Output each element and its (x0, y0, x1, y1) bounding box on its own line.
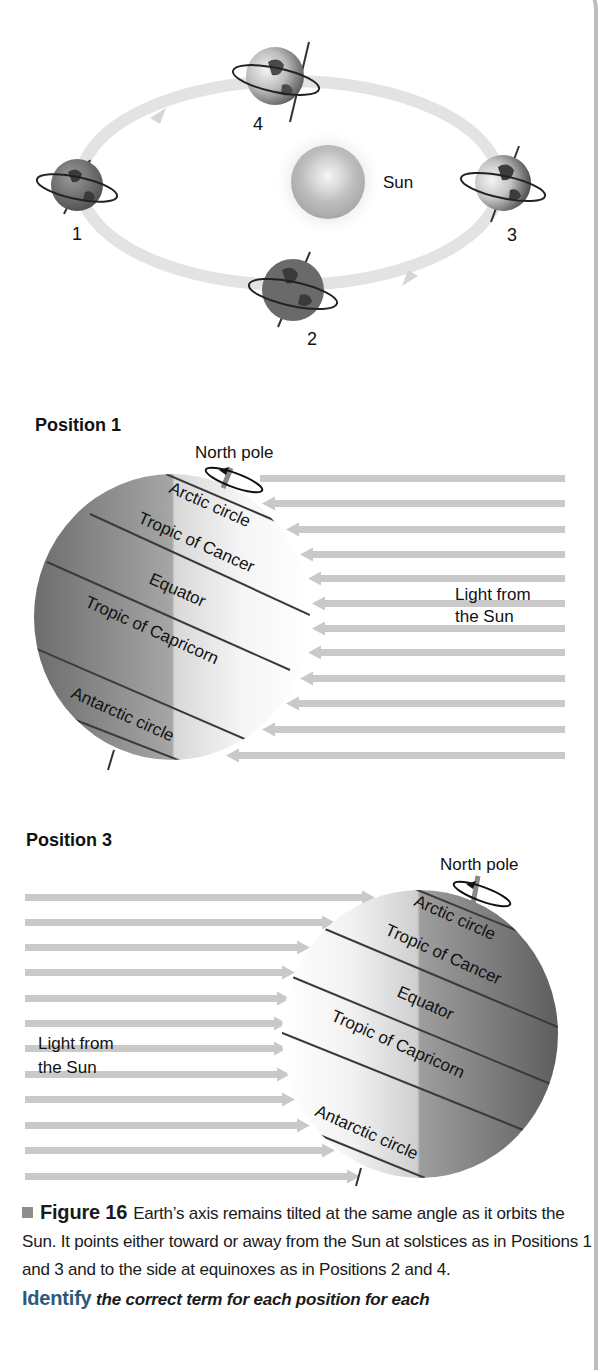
identify-prompt: the correct term for each position for e… (96, 1290, 429, 1309)
position-number: 2 (307, 329, 317, 349)
caption-bullet-icon (22, 1207, 33, 1218)
position-number: 1 (72, 224, 82, 244)
position-3-title: Position 3 (26, 830, 112, 850)
position-number: 3 (507, 225, 517, 245)
figure-caption: Figure 16Earth’s axis remains tilted at … (22, 1198, 592, 1314)
light-from-sun-label: the Sun (38, 1058, 97, 1077)
light-from-sun-label: the Sun (455, 607, 514, 626)
earth-globe-position-2: 2 (246, 252, 339, 349)
position-number: 4 (253, 114, 263, 134)
sun-icon (291, 145, 365, 219)
light-from-sun-label: Light from (38, 1034, 114, 1053)
position-3-diagram: Position 3 Light from the Sun (25, 830, 565, 1186)
identify-label: Identify (22, 1287, 92, 1309)
position-1-diagram: Position 1 Light from the Sun (30, 415, 565, 770)
position-1-title: Position 1 (35, 415, 121, 435)
light-from-sun-label: Light from (455, 585, 531, 604)
figure-label: Figure 16 (40, 1201, 127, 1223)
orbit-diagram: Sun 1 4 (35, 42, 548, 349)
north-pole-label: North pole (440, 855, 518, 874)
earth-axis (108, 750, 114, 770)
sun-label: Sun (383, 173, 413, 192)
north-pole-label: North pole (195, 443, 273, 462)
